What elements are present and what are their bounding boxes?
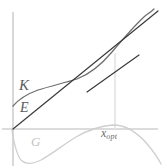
x-optimum-label: xopt — [101, 127, 117, 139]
k-curve-label: K — [19, 78, 29, 93]
e-line — [13, 11, 158, 129]
tangent-line — [87, 55, 139, 92]
x-optimum-subscript: opt — [106, 132, 117, 141]
figure-canvas: K E G xopt — [0, 0, 167, 168]
e-line-label: E — [20, 101, 29, 115]
g-curve-label: G — [31, 135, 40, 148]
k-curve — [13, 9, 154, 106]
